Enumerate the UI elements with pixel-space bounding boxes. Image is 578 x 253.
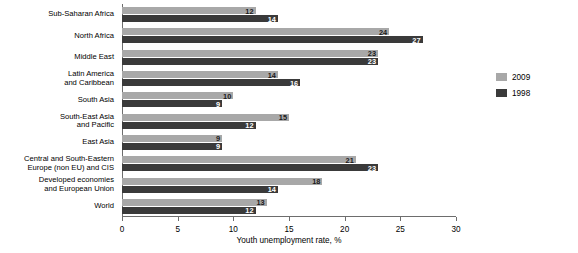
x-tick-label: 25 (388, 225, 412, 234)
bar-value-label: 14 (254, 72, 276, 79)
x-tick (400, 217, 401, 221)
category-axis-labels: Sub-Saharan AfricaNorth AfricaMiddle Eas… (0, 4, 118, 217)
legend-swatch-2009 (496, 73, 507, 81)
x-tick (178, 217, 179, 221)
bar-value-label: 14 (254, 16, 276, 23)
bar-2009-2 (122, 50, 378, 57)
bar-value-label: 16 (276, 80, 298, 87)
category-label: Developed economies and European Union (0, 176, 114, 193)
legend-item-1998: 1998 (496, 87, 566, 99)
x-tick-label: 10 (221, 225, 245, 234)
youth-unemployment-bar-chart: Sub-Saharan AfricaNorth AfricaMiddle Eas… (0, 0, 578, 253)
bar-2009-1 (122, 28, 389, 35)
x-tick (233, 217, 234, 221)
bar-value-label: 23 (354, 165, 376, 172)
category-label: East Asia (0, 138, 114, 147)
bar-1998-2 (122, 58, 378, 65)
bar-value-label: 9 (198, 101, 220, 108)
category-label: Central and South-Eastern Europe (non EU… (0, 155, 114, 172)
x-axis-title: Youth unemployment rate, % (122, 236, 456, 245)
legend-item-2009: 2009 (496, 71, 566, 83)
category-label: Sub-Saharan Africa (0, 10, 114, 19)
bar-value-label: 24 (365, 29, 387, 36)
bar-value-label: 14 (254, 186, 276, 193)
bar-value-label: 12 (232, 8, 254, 15)
x-tick (345, 217, 346, 221)
category-label: Latin America and Caribbean (0, 70, 114, 87)
category-label: North Africa (0, 32, 114, 41)
x-tick (122, 217, 123, 221)
bar-value-label: 18 (298, 178, 320, 185)
bar-2009-7 (122, 156, 356, 163)
x-tick-label: 20 (333, 225, 357, 234)
x-tick-label: 5 (166, 225, 190, 234)
x-tick-label: 30 (444, 225, 468, 234)
bar-value-label: 9 (198, 135, 220, 142)
x-tick (456, 217, 457, 221)
bar-value-label: 13 (243, 199, 265, 206)
plot-area: 1214242723231416109151299212318141312 05… (122, 4, 456, 217)
category-label: South Asia (0, 96, 114, 105)
bar-2009-5 (122, 114, 289, 121)
chart-legend: 2009 1998 (496, 71, 566, 103)
bar-value-label: 12 (232, 207, 254, 214)
bar-value-label: 9 (198, 143, 220, 150)
bar-value-label: 15 (265, 114, 287, 121)
bar-value-label: 21 (332, 157, 354, 164)
category-label: South-East Asia and Pacific (0, 113, 114, 130)
category-label: Middle East (0, 53, 114, 62)
bar-value-label: 23 (354, 58, 376, 65)
legend-swatch-1998 (496, 89, 507, 97)
category-label: World (0, 202, 114, 211)
x-tick-label: 0 (110, 225, 134, 234)
x-tick-label: 15 (277, 225, 301, 234)
bar-1998-3 (122, 79, 300, 86)
bar-1998-7 (122, 164, 378, 171)
legend-label-1998: 1998 (512, 89, 530, 98)
bar-1998-1 (122, 36, 423, 43)
bar-value-label: 10 (209, 93, 231, 100)
legend-label-2009: 2009 (512, 73, 530, 82)
bar-2009-8 (122, 178, 322, 185)
x-tick (289, 217, 290, 221)
bar-value-label: 23 (354, 50, 376, 57)
bar-value-label: 27 (399, 37, 421, 44)
bar-value-label: 12 (232, 122, 254, 129)
